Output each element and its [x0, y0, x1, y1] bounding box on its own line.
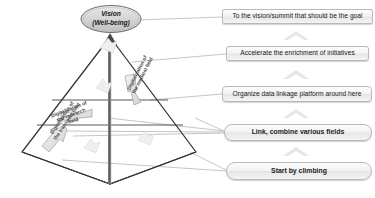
callout-platform[interactable]: Organize data linkage platform around he…	[222, 86, 372, 102]
callout-start[interactable]: Start by climbing	[226, 162, 372, 180]
callout-link-label: Link, combine various fields	[252, 129, 345, 136]
callout-enrich-label: Accelerate the enrichment of initiatives	[240, 50, 355, 57]
diagram-canvas: Vision (Well-being) Digitalization of th…	[0, 0, 375, 198]
vision-ellipse	[81, 6, 141, 33]
callout-start-label: Start by climbing	[271, 168, 327, 175]
central-ascent-arrow	[103, 33, 117, 184]
callout-goal[interactable]: To the vision/summit that should be the …	[222, 9, 373, 24]
callout-platform-label: Organize data linkage platform around he…	[233, 91, 362, 98]
callout-goal-label: To the vision/summit that should be the …	[232, 13, 362, 20]
callout-enrich[interactable]: Accelerate the enrichment of initiatives	[226, 46, 369, 61]
callout-link[interactable]: Link, combine various fields	[224, 124, 372, 141]
